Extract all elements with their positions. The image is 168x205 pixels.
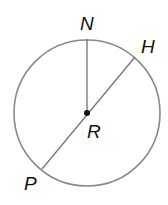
label-H: H bbox=[141, 36, 155, 57]
center-point-R bbox=[84, 110, 90, 116]
circle-diagram: N H R P bbox=[0, 0, 168, 205]
label-P: P bbox=[24, 173, 37, 194]
label-N: N bbox=[80, 13, 94, 34]
label-R: R bbox=[87, 121, 101, 142]
